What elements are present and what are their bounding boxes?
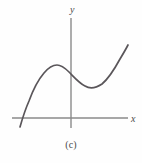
y-axis-label: y xyxy=(70,5,74,15)
figure-container: y x (c) xyxy=(0,0,142,163)
figure-caption: (c) xyxy=(0,139,142,150)
x-axis-label: x xyxy=(131,114,135,124)
function-curve xyxy=(20,45,128,127)
